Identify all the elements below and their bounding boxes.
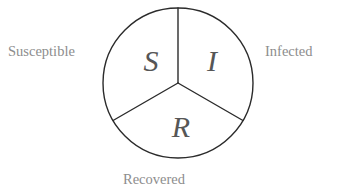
sir-circle-graphic [0,0,345,196]
sector-letter-infected: I [192,46,232,76]
label-susceptible: Susceptible [8,44,75,59]
label-infected: Infected [265,44,313,59]
sector-letter-recovered: R [161,112,201,142]
sir-model-diagram: S I R Susceptible Infected Recovered [0,0,345,196]
sector-letter-susceptible: S [131,46,171,76]
label-recovered: Recovered [123,172,185,187]
